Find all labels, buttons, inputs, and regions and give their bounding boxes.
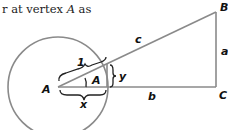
- label-vertex-a: A: [41, 83, 51, 96]
- label-side-a: a: [221, 45, 228, 58]
- label-side-c: c: [135, 33, 142, 46]
- label-side-b: b: [148, 90, 156, 103]
- label-y: y: [119, 70, 127, 83]
- label-angle-a: A: [91, 74, 101, 87]
- label-x: x: [79, 98, 88, 111]
- angle-arc: [85, 78, 86, 87]
- label-unit-radius: 1: [77, 56, 85, 69]
- label-vertex-b: B: [220, 1, 228, 14]
- unit-circle-triangle-diagram: A A 1 x y c b a B C: [0, 0, 228, 130]
- label-vertex-c: C: [219, 89, 227, 102]
- triangle-abc: [58, 12, 216, 87]
- y-brace: [110, 65, 116, 87]
